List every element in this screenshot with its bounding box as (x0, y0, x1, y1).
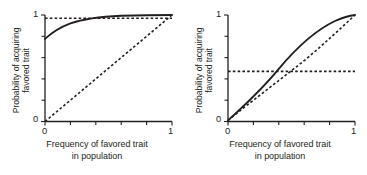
x-axis-label-line2: in population (197, 151, 363, 163)
y-axis-label-line1: Probability of acquiring (194, 28, 204, 114)
y-axis-label-line2: favored trait (21, 8, 31, 132)
x-tick-label-max: 1 (351, 126, 356, 135)
figure-container: 1 0 0 1 Probability of acquiring favored… (0, 0, 367, 175)
x-tick-label-min: 0 (42, 126, 47, 135)
chart-panel-right: 1 0 0 1 Probability of acquiring favored… (183, 0, 367, 175)
y-tick-label-max: 1 (216, 9, 221, 18)
x-axis-label-line1: Frequency of favored trait (229, 139, 330, 149)
x-tick-label-max: 1 (168, 126, 173, 135)
y-axis-label: Probability of acquiring favored trait (11, 8, 32, 132)
y-tick-label-min: 0 (33, 114, 38, 123)
y-tick-label-max: 1 (33, 9, 38, 18)
unbiased-transmission-dashed-curve (228, 15, 355, 121)
chart-panel-left: 1 0 0 1 Probability of acquiring favored… (0, 0, 184, 175)
y-tick-label-min: 0 (216, 114, 221, 123)
x-axis-label-line1: Frequency of favored trait (46, 139, 147, 149)
x-axis-label: Frequency of favored trait in population (14, 139, 180, 162)
x-tick-label-min: 0 (225, 126, 230, 135)
x-axis-label: Frequency of favored trait in population (197, 139, 363, 162)
y-axis-label: Probability of acquiring favored trait (194, 8, 215, 132)
unbiased-transmission-dashed-line (45, 15, 172, 122)
y-axis-label-line1: Probability of acquiring (11, 28, 21, 114)
y-axis-label-line2: favored trait (204, 8, 214, 132)
x-axis-label-line2: in population (14, 151, 180, 163)
